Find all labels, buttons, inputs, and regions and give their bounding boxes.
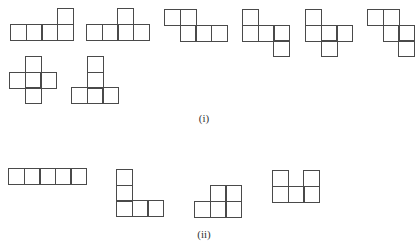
square-cell: [195, 25, 212, 42]
part-i-label: (i): [184, 112, 224, 124]
square-cell: [57, 24, 74, 41]
square-cell: [25, 87, 42, 104]
part-ii-label: (ii): [184, 228, 224, 240]
figure-canvas: (i) (ii): [0, 0, 420, 250]
square-cell: [116, 169, 133, 186]
square-cell: [102, 87, 119, 104]
square-cell: [321, 40, 338, 57]
square-cell: [211, 25, 228, 42]
square-cell: [10, 24, 27, 41]
square-cell: [303, 170, 320, 187]
square-cell: [39, 168, 56, 185]
square-cell: [57, 8, 74, 25]
square-cell: [70, 168, 87, 185]
square-cell: [117, 8, 134, 25]
square-cell: [305, 9, 322, 26]
square-cell: [273, 40, 290, 57]
square-cell: [40, 72, 57, 89]
square-cell: [303, 186, 320, 203]
square-cell: [194, 201, 211, 218]
square-cell: [180, 9, 197, 26]
square-cell: [41, 24, 58, 41]
square-cell: [71, 87, 88, 104]
square-cell: [117, 24, 134, 41]
square-cell: [225, 201, 242, 218]
square-cell: [398, 40, 415, 57]
square-cell: [25, 56, 42, 73]
square-cell: [305, 25, 322, 42]
square-cell: [272, 186, 289, 203]
square-cell: [225, 185, 242, 202]
square-cell: [367, 9, 384, 26]
square-cell: [133, 24, 150, 41]
square-cell: [242, 25, 259, 42]
square-cell: [87, 56, 104, 73]
square-cell: [242, 9, 259, 26]
square-cell: [383, 9, 400, 26]
square-cell: [86, 24, 103, 41]
square-cell: [147, 200, 164, 217]
square-cell: [8, 168, 25, 185]
square-cell: [272, 170, 289, 187]
square-cell: [116, 200, 133, 217]
square-cell: [9, 72, 26, 89]
square-cell: [164, 9, 181, 26]
square-cell: [336, 25, 353, 42]
